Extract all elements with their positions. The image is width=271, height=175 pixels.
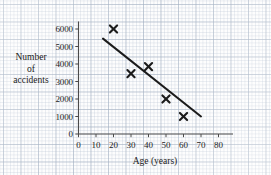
x-axis-tick-label: 30 [127, 140, 136, 150]
y-axis-tick-label: 5000 [55, 42, 73, 52]
x-axis-title: Age (years) [133, 156, 178, 166]
data-point-marker [127, 70, 134, 77]
y-axis-tick-label: 6000 [55, 24, 73, 34]
x-axis-tick-label: 50 [162, 140, 171, 150]
trend-line [103, 39, 201, 117]
axes [79, 22, 233, 134]
line-of-best-fit [103, 39, 201, 117]
y-axis-tick-label: 3000 [55, 77, 73, 87]
y-axis-tick-label: 0 [69, 129, 73, 139]
y-axis-title-line-3: accidents [4, 75, 58, 87]
x-axis-tick-label: 60 [179, 140, 188, 150]
x-axis-tick-label: 40 [144, 140, 153, 150]
y-axis-title-line-1: Number [4, 52, 58, 64]
axis-ticks [75, 29, 218, 137]
x-axis-tick-label: 20 [109, 140, 118, 150]
x-axis-tick-label: 80 [214, 140, 223, 150]
y-axis-tick-label: 1000 [55, 112, 73, 122]
x-axis-tick-label: 10 [92, 140, 101, 150]
data-point-marker [145, 63, 152, 70]
data-point-marker [110, 25, 117, 32]
data-point-marker [162, 95, 169, 102]
y-axis-tick-label: 2000 [55, 94, 73, 104]
y-axis-tick-label: 4000 [55, 59, 73, 69]
x-axis-tick-label: 70 [197, 140, 206, 150]
scatter-chart: 0100020003000400050006000 01020304050607… [0, 0, 271, 175]
x-axis-tick-label: 0 [76, 140, 80, 150]
y-axis-title: Number of accidents [4, 52, 58, 87]
y-axis-title-line-2: of [4, 64, 58, 76]
data-point-marker [180, 113, 187, 120]
data-points [110, 25, 187, 120]
